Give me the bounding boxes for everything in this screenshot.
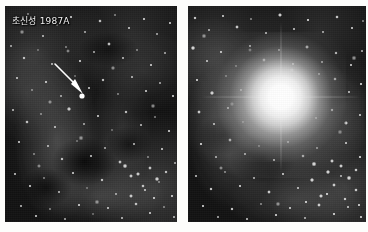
star-field-after — [188, 6, 366, 222]
star-field-before — [5, 6, 177, 222]
supernova-figure: 초신성 1987A — [0, 0, 368, 232]
panel-after[interactable] — [188, 6, 366, 222]
panel-before[interactable]: 초신성 1987A — [5, 6, 177, 222]
